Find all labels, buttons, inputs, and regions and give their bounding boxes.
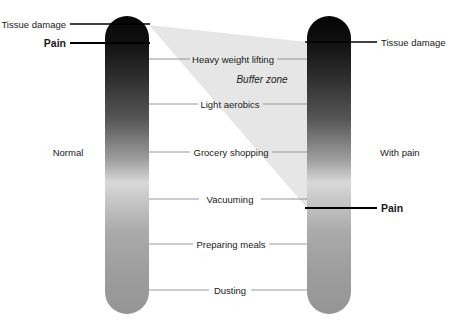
- activity-label-vacuuming: Vacuuming: [207, 195, 254, 205]
- activity-label-preparing-meals: Preparing meals: [196, 240, 265, 250]
- pain-threshold-diagram: [0, 0, 455, 331]
- normal-bar-label: Normal: [53, 148, 84, 158]
- with-pain-tissue-damage-label: Tissue damage: [381, 38, 446, 48]
- activity-label-grocery-shopping: Grocery shopping: [194, 148, 269, 158]
- normal-bar-shape: [105, 16, 149, 314]
- with-pain-pain-label: Pain: [381, 203, 403, 214]
- with-pain-bar-label: With pain: [380, 148, 420, 158]
- buffer-zone-region: [149, 25, 307, 208]
- diagram-canvas: Tissue damage Pain Normal Tissue damage …: [0, 0, 455, 331]
- with-pain-bar-shape: [307, 16, 351, 314]
- normal-tissue-damage-label: Tissue damage: [1, 20, 66, 30]
- activity-label-heavy-weight-lifting: Heavy weight lifting: [192, 55, 274, 65]
- activity-label-dusting: Dusting: [214, 286, 246, 296]
- activity-label-light-aerobics: Light aerobics: [200, 100, 259, 110]
- normal-pain-label: Pain: [44, 38, 66, 49]
- buffer-zone-label: Buffer zone: [236, 75, 287, 85]
